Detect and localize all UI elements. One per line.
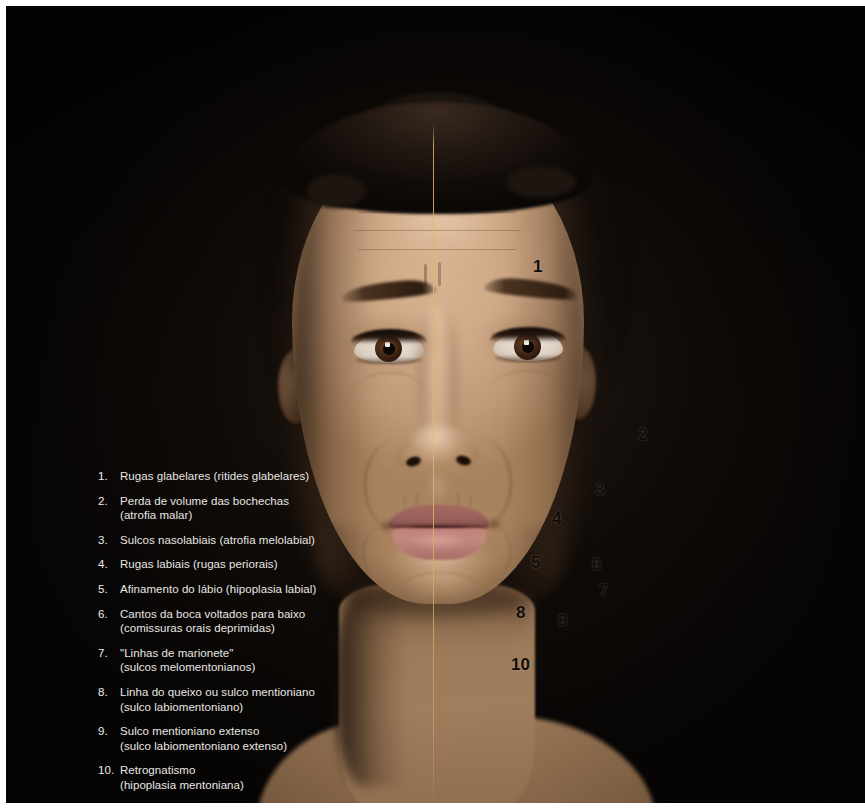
legend-item-secondary: (comissuras orais deprimidas) (120, 621, 378, 636)
legend-item-number: 1. (98, 469, 120, 484)
legend-item-number: 9. (98, 724, 120, 739)
legend-item-number: 4. (98, 557, 120, 572)
legend-item-primary: Cantos da boca voltados para baixo (120, 607, 378, 622)
legend-item-primary: Rugas labiais (rugas periorais) (120, 557, 378, 572)
legend-item-text: Rugas labiais (rugas periorais) (120, 557, 378, 572)
legend-item-secondary: (sulco labiomentoniano) (120, 700, 378, 715)
legend-item-primary: Rugas glabelares (ritides glabelares) (120, 469, 378, 484)
legend-item-number: 5. (98, 582, 120, 597)
legend-item-number: 2. (98, 494, 120, 509)
legend-item-primary: Linha do queixo ou sulco mentioniano (120, 685, 378, 700)
lower-lashes (495, 355, 561, 362)
photo-plate: 12345678910 1.Rugas glabelares (ritides … (6, 6, 865, 803)
legend-item-secondary: (sulcos melomentonianos) (120, 660, 378, 675)
right-eye (493, 331, 563, 361)
legend-item: 5.Afinamento do lábio (hipoplasia labial… (98, 582, 378, 597)
callout-lip-thinning: 5 (531, 554, 540, 571)
legend-item-primary: Perda de volume das bochechas (120, 494, 378, 509)
legend-item-secondary: (atrofia malar) (120, 508, 378, 523)
legend-list: 1.Rugas glabelares (ritides glabelares)2… (58, 469, 378, 803)
left-eye (354, 333, 424, 363)
legend-item-text: Afinamento do lábio (hipoplasia labial) (120, 582, 378, 597)
legend-item-primary: Retrognatismo (120, 763, 378, 778)
callout-perioral-lines: 4 (552, 510, 561, 527)
callout-malar-volume-loss: 2 (638, 426, 647, 443)
legend-item: 10.Retrognatismo(hipoplasia mentoniana) (98, 763, 378, 792)
legend-item-secondary: (hipoplasia mentoniana) (120, 778, 378, 793)
legend-item-number: 10. (98, 763, 120, 778)
legend-item: 7."Linhas de marionete"(sulcos melomento… (98, 646, 378, 675)
legend-item-text: Linha do queixo ou sulco mentioniano(sul… (120, 685, 378, 714)
callout-mentolabial-sulcus: 8 (516, 604, 525, 621)
legend-item-primary: Sulco mentioniano extenso (120, 724, 378, 739)
mouth-line (384, 525, 494, 528)
legend-item-number: 8. (98, 685, 120, 700)
glabellar-line (438, 262, 441, 286)
callout-extended-mentolabial-sulcus: 9 (558, 612, 567, 629)
facial-midline (433, 124, 434, 803)
callout-nasolabial-fold: 3 (595, 481, 604, 498)
legend-item-primary: Sulcos nasolabiais (atrofia melolabial) (120, 533, 378, 548)
callout-retrognathia: 10 (511, 656, 530, 673)
lower-lashes (356, 357, 422, 364)
callout-glabellar-lines: 1 (533, 258, 542, 275)
legend-item: 8.Linha do queixo ou sulco mentioniano(s… (98, 685, 378, 714)
legend-item: 6.Cantos da boca voltados para baixo(com… (98, 607, 378, 636)
legend-item-text: Sulco mentioniano extenso(sulco labiomen… (120, 724, 378, 753)
legend-item-text: Sulcos nasolabiais (atrofia melolabial) (120, 533, 378, 548)
callout-oral-commissure: 6 (592, 556, 601, 573)
legend-item-text: Perda de volume das bochechas(atrofia ma… (120, 494, 378, 523)
legend-item-primary: Afinamento do lábio (hipoplasia labial) (120, 582, 378, 597)
legend-item-text: "Linhas de marionete"(sulcos melomentoni… (120, 646, 378, 675)
legend-item-secondary: (sulco labiomentoniano extenso) (120, 739, 378, 754)
legend-item: 4.Rugas labiais (rugas periorais) (98, 557, 378, 572)
philtrum (426, 468, 450, 504)
legend-item: 3.Sulcos nasolabiais (atrofia melolabial… (98, 533, 378, 548)
legend-item: 9.Sulco mentioniano extenso(sulco labiom… (98, 724, 378, 753)
facial-aging-figure: 12345678910 1.Rugas glabelares (ritides … (0, 0, 865, 808)
legend-item: 1.Rugas glabelares (ritides glabelares) (98, 469, 378, 484)
hair-wisp (506, 166, 576, 198)
legend-item-text: Rugas glabelares (ritides glabelares) (120, 469, 378, 484)
legend-item-number: 3. (98, 533, 120, 548)
legend-item-number: 7. (98, 646, 120, 661)
legend-item-text: Cantos da boca voltados para baixo(comis… (120, 607, 378, 636)
legend-item-text: Retrognatismo(hipoplasia mentoniana) (120, 763, 378, 792)
legend-item: 2.Perda de volume das bochechas(atrofia … (98, 494, 378, 523)
legend-item-number: 6. (98, 607, 120, 622)
lip-highlight (412, 534, 466, 549)
hair-wisp (306, 174, 366, 208)
legend-item-primary: "Linhas de marionete" (120, 646, 378, 661)
callout-marionette-lines: 7 (599, 582, 608, 599)
page-edge-strip (0, 803, 865, 808)
